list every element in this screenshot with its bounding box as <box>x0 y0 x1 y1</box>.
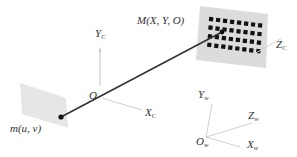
board-square <box>229 37 234 42</box>
board-square <box>251 22 256 27</box>
board-square <box>243 30 248 35</box>
projection-ray <box>61 32 222 117</box>
board-square <box>216 18 221 23</box>
board-square <box>221 44 226 49</box>
world-origin-label-main: O <box>196 135 204 147</box>
board-square <box>244 21 249 26</box>
board-square <box>222 36 227 41</box>
world-y-axis <box>206 104 212 137</box>
world-origin-label-sub: w <box>204 141 209 148</box>
board-square <box>237 20 242 25</box>
camera-y-axis-label-sub: C <box>101 33 106 40</box>
board-square <box>207 43 212 48</box>
image-point-label: m(u, v) <box>10 122 41 135</box>
board-square <box>249 48 254 53</box>
world-y-axis-label: Yw <box>198 88 209 101</box>
board-square <box>215 26 220 31</box>
camera-z-axis-label: ZC <box>276 38 287 51</box>
board-square <box>214 43 219 48</box>
world-y-axis-label-sub: w <box>204 94 209 101</box>
world-x-axis <box>206 137 240 147</box>
board-square <box>235 46 240 51</box>
camera-y-axis-arrow <box>99 47 102 52</box>
world-x-axis-label-sub: w <box>254 144 259 151</box>
board-square <box>236 38 241 43</box>
world-z-axis-label-sub: w <box>254 115 259 122</box>
calibration-board <box>196 6 268 68</box>
world-z-axis <box>206 123 252 137</box>
board-square <box>208 25 213 30</box>
board-square <box>236 29 241 34</box>
image-point-dot <box>58 114 63 119</box>
diagram-canvas: M(X, Y, O) m(u, v) O YC XC ZC Yw Zw Ow X… <box>0 0 297 157</box>
world-z-axis-label: Zw <box>248 109 259 122</box>
board-square <box>257 32 262 37</box>
world-point-dot <box>220 30 225 35</box>
world-x-axis-label: Xw <box>246 138 259 151</box>
camera-x-axis <box>102 98 142 110</box>
board-square <box>229 28 234 33</box>
camera-y-axis-label: YC <box>95 27 106 40</box>
board-square <box>223 19 228 24</box>
board-square <box>242 47 247 52</box>
camera-x-axis-label: XC <box>144 106 157 119</box>
board-square <box>209 17 214 22</box>
calibration-diagram: M(X, Y, O) m(u, v) O YC XC ZC Yw Zw Ow X… <box>0 0 297 157</box>
board-square <box>250 31 255 36</box>
board-square <box>250 39 255 44</box>
camera-z-axis-label-sub: C <box>282 44 287 51</box>
world-point-label: M(X, Y, O) <box>136 14 185 27</box>
board-square <box>257 40 262 45</box>
board-square <box>258 23 263 28</box>
board-square <box>228 45 233 50</box>
board-square <box>230 19 235 24</box>
camera-origin-label: O <box>89 89 97 101</box>
board-square <box>243 38 248 43</box>
camera-x-axis-label-sub: C <box>152 112 157 119</box>
